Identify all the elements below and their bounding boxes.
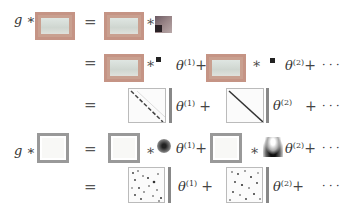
superscript: (2) <box>293 141 304 150</box>
theta-symbol: θ <box>176 58 184 73</box>
theta-symbol: θ <box>176 141 184 156</box>
superscript: (1) <box>184 99 195 108</box>
ellipsis: · · · <box>322 100 339 113</box>
plus-sign: + <box>305 98 317 114</box>
scatter-pattern-icon <box>227 168 263 203</box>
theta-1: θ(1) + <box>178 178 213 194</box>
equals-sign: = <box>84 54 97 72</box>
kernel-delta-1 <box>156 57 161 62</box>
superscript: (1) <box>186 179 197 188</box>
theta-symbol: θ <box>273 98 281 113</box>
theta-symbol: θ <box>285 58 293 73</box>
plus-sign: + <box>199 98 211 114</box>
plus-sign: + <box>201 178 213 194</box>
plus-sign: + <box>292 178 304 194</box>
convolution-star: ∗ <box>146 142 156 158</box>
solid-diagonal-icon <box>227 89 264 123</box>
ellipsis: · · · <box>322 180 339 193</box>
theta-2: θ(2)+ <box>285 57 316 73</box>
g-conv-label: g ∗ <box>14 12 35 27</box>
theta-1: θ(1) + <box>176 98 211 114</box>
matrix-sparse-2 <box>226 167 263 203</box>
dashed-diagonal-icon <box>129 89 166 123</box>
theta-symbol: θ <box>178 179 186 194</box>
equals-sign: = <box>84 140 97 158</box>
kernel-delta-2 <box>270 58 275 63</box>
matrix-shift-1 <box>128 88 166 123</box>
superscript: (1) <box>184 141 195 150</box>
theta-1: θ(1)+ <box>176 57 207 73</box>
theta-2: θ(2)+ <box>273 178 304 194</box>
kernel-patch <box>155 16 172 33</box>
ellipsis: · · · <box>322 142 339 155</box>
image-swan-sketch <box>37 133 69 163</box>
ellipsis: · · · <box>322 59 339 72</box>
matrix-sparse-1 <box>128 167 165 203</box>
image-city-photo <box>206 54 246 82</box>
theta-1: θ(1)+ <box>176 140 207 156</box>
vector-bar <box>168 167 171 203</box>
convolution-star: ∗ <box>250 142 260 158</box>
image-city-photo <box>104 12 144 40</box>
image-city-photo <box>104 54 144 82</box>
scatter-pattern-icon <box>129 168 165 203</box>
gabor-kernel-icon <box>263 137 283 157</box>
theta-symbol: θ <box>176 99 184 114</box>
superscript: (1) <box>184 58 195 67</box>
vector-bar <box>266 167 269 203</box>
vector-bar <box>169 88 172 123</box>
convolution-star: ∗ <box>252 55 262 71</box>
superscript: (2) <box>281 179 292 188</box>
matrix-shift-2 <box>226 88 264 123</box>
superscript: (2) <box>281 98 292 107</box>
equals-sign: = <box>84 178 97 196</box>
plus-sign: + <box>195 140 207 156</box>
equals-sign: = <box>84 96 97 114</box>
theta-symbol: θ <box>273 179 281 194</box>
image-city-photo <box>35 12 75 40</box>
theta-2: θ(2)+ <box>285 140 316 156</box>
gaussian-kernel-icon <box>157 139 171 153</box>
equals-sign: = <box>84 13 97 31</box>
superscript: (2) <box>293 58 304 67</box>
kernel-dark-cell <box>155 25 162 32</box>
convolution-star: ∗ <box>146 55 156 71</box>
g-conv-label: g ∗ <box>14 143 35 158</box>
vector-bar <box>266 88 269 123</box>
plus-sign: + <box>304 140 316 156</box>
theta-symbol: θ <box>285 141 293 156</box>
theta-2: θ(2) <box>273 98 292 113</box>
image-swan-sketch <box>108 133 140 163</box>
image-swan-sketch <box>210 133 242 163</box>
plus-sign: + <box>304 57 316 73</box>
